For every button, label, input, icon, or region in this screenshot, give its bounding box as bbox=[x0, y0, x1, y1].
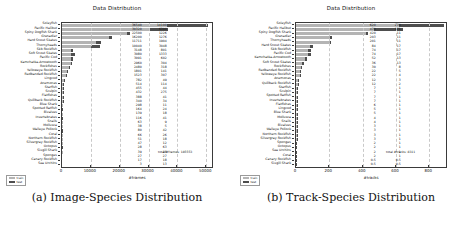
bar-segment-train bbox=[62, 49, 71, 52]
y-tick-mark bbox=[58, 66, 60, 67]
bar-segment-train bbox=[296, 53, 308, 56]
legend-label-test: test bbox=[17, 181, 23, 184]
y-axis-labels-right: SoleyfishPacific HalibutSpiny Dogfish Sh… bbox=[234, 22, 294, 168]
bar-value-train: 432 bbox=[120, 91, 142, 94]
y-tick-mark bbox=[58, 151, 60, 152]
y-tick-mark bbox=[292, 113, 294, 114]
bar-segment-test bbox=[310, 45, 313, 48]
bar-value-test: 1 bbox=[381, 129, 401, 132]
caption-panel-a: (a) Image-Species Distribution bbox=[0, 191, 234, 204]
bar-value-test: 1 bbox=[381, 108, 401, 111]
bar-value-train: 3 bbox=[120, 163, 142, 166]
y-tick-mark bbox=[292, 126, 294, 127]
y-tick-mark bbox=[58, 50, 60, 51]
bar-segment-test bbox=[300, 70, 301, 73]
x-tick-mark bbox=[61, 165, 62, 167]
total-annotation-left: total #frames: 185553 bbox=[158, 150, 192, 154]
bar-value-train: 28 bbox=[120, 146, 142, 149]
y-tick-mark bbox=[58, 155, 60, 156]
bar-value-test: 0.5 bbox=[381, 163, 401, 166]
bar-segment-test bbox=[305, 57, 307, 60]
bar-segment-train bbox=[62, 57, 71, 60]
bar-value-train: 22 bbox=[354, 74, 376, 77]
bar-segment-test bbox=[167, 24, 208, 27]
y-tick-mark bbox=[292, 92, 294, 93]
y-tick-mark bbox=[58, 160, 60, 161]
x-tick-mark bbox=[205, 165, 206, 167]
bar-segment-test bbox=[71, 49, 73, 52]
y-tick-mark bbox=[58, 92, 60, 93]
x-tick-mark bbox=[328, 165, 329, 167]
bar-segment-train bbox=[62, 32, 127, 35]
y-tick-mark bbox=[58, 100, 60, 101]
bar-value-train: 3 bbox=[354, 125, 376, 128]
bar-segment-test bbox=[302, 62, 304, 65]
x-tick-mark bbox=[295, 165, 296, 167]
y-tick-mark bbox=[292, 54, 294, 55]
bar-value-test: 9 bbox=[147, 121, 167, 124]
bar-segment-test bbox=[399, 24, 444, 27]
bar-segment-train bbox=[296, 41, 330, 44]
y-axis-labels-left: SoleyfishPacific HalibutSpiny Dogfish Sh… bbox=[0, 22, 60, 168]
bar-value-test: 1 bbox=[381, 146, 401, 149]
bar-segment-test bbox=[300, 74, 301, 77]
figure-data-distribution: Data Distribution SoleyfishPacific Halib… bbox=[0, 0, 468, 225]
legend-entry-test: test bbox=[9, 181, 23, 184]
x-tick-mark bbox=[119, 165, 120, 167]
bar-value-test: 307 bbox=[147, 74, 167, 77]
panel-track-species: Data Distribution SoleyfishPacific Halib… bbox=[234, 0, 468, 190]
bar-value-train: 2 bbox=[354, 151, 376, 154]
bar-value-test: 4 bbox=[381, 74, 401, 77]
bar-value-test: 1 bbox=[381, 142, 401, 145]
bar-value-test: 1 bbox=[381, 104, 401, 107]
bar-value-train: 4 bbox=[354, 121, 376, 124]
y-tick-mark bbox=[292, 138, 294, 139]
y-tick-mark bbox=[58, 164, 60, 165]
bar-segment-train bbox=[62, 53, 71, 56]
y-tick-mark bbox=[292, 24, 294, 25]
bar-value-train: 1523 bbox=[120, 74, 142, 77]
plot-area-left: 3654014100303206300225001226162001276117… bbox=[61, 22, 213, 168]
y-tick-mark bbox=[292, 50, 294, 51]
bar-value-test: 1 bbox=[381, 91, 401, 94]
chart-title: Data Distribution bbox=[0, 5, 234, 11]
bar-value-train: 7 bbox=[354, 100, 376, 103]
y-tick-mark bbox=[58, 28, 60, 29]
bar-segment-train bbox=[296, 49, 308, 52]
bar-segment-test bbox=[71, 57, 73, 60]
y-tick-mark bbox=[58, 83, 60, 84]
bar-value-train: 3 bbox=[354, 138, 376, 141]
legend-swatch-test bbox=[9, 181, 15, 183]
x-tick-mark bbox=[395, 165, 396, 167]
x-tick-label: 10000 bbox=[84, 168, 96, 173]
y-tick-mark bbox=[292, 164, 294, 165]
x-tick-label: 0 bbox=[294, 168, 296, 173]
bar-value-test: 63 bbox=[147, 146, 167, 149]
bar-value-train: 2 bbox=[354, 142, 376, 145]
y-tick-mark bbox=[292, 79, 294, 80]
legend-swatch-train bbox=[243, 177, 249, 179]
y-tick-mark bbox=[58, 130, 60, 131]
y-tick-mark bbox=[58, 96, 60, 97]
bar-value-test: 41 bbox=[147, 117, 167, 120]
y-tick-mark bbox=[292, 117, 294, 118]
bar-value-test: 1 bbox=[381, 87, 401, 90]
y-tick-mark bbox=[292, 75, 294, 76]
y-tick-mark bbox=[58, 147, 60, 148]
y-tick-mark bbox=[58, 138, 60, 139]
x-tick-label: 50000 bbox=[199, 168, 211, 173]
bar-value-train: 3 bbox=[354, 129, 376, 132]
bar-value-test: 275 bbox=[147, 91, 167, 94]
y-tick-mark bbox=[58, 109, 60, 110]
y-tick-mark bbox=[58, 24, 60, 25]
bar-segment-train bbox=[62, 66, 69, 69]
y-tick-mark bbox=[292, 105, 294, 106]
y-tick-mark bbox=[292, 41, 294, 42]
grid-line bbox=[91, 23, 92, 167]
bar-value-test: 1 bbox=[381, 96, 401, 99]
y-tick-mark bbox=[58, 126, 60, 127]
bar-segment-train bbox=[62, 36, 109, 39]
bar-value-test: 5 bbox=[381, 70, 401, 73]
y-tick-mark bbox=[292, 109, 294, 110]
y-tick-mark bbox=[292, 66, 294, 67]
